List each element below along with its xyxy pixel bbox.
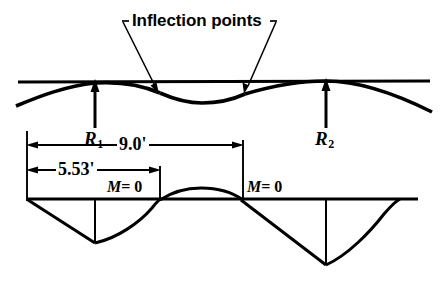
diagram-canvas [0,0,446,287]
dimension-label-9ft: 9.0' [117,135,149,153]
moment-right-parabola [326,199,400,265]
reaction-r2-symbol: R [315,128,328,149]
reaction-r1-label: R1 [84,129,103,150]
moment-zero-left-value: = 0 [121,178,142,195]
beam-diagram-figure: Inflection points R1 R2 9.0' 5.53' M= 0 … [0,0,446,287]
reaction-r2-label: R2 [315,129,334,150]
moment-left-straight-leg [28,200,95,243]
deflected-curve-middle [160,93,245,103]
reaction-arrow-r1 [91,79,100,128]
moment-zero-label-left: M= 0 [106,179,143,195]
moment-zero-right-value: = 0 [261,178,282,195]
moment-left-parabola [95,199,160,243]
moment-zero-label-right: M= 0 [246,179,283,195]
leader-right [243,21,278,94]
moment-right-straight-leg [241,200,326,265]
reaction-r1-subscript: 1 [97,137,103,151]
deflected-curve-left [16,83,160,106]
moment-zero-right-symbol: M [247,178,261,195]
reaction-arrow-r2 [322,78,331,128]
deflected-curve-right [245,81,432,112]
moment-zero-left-symbol: M [107,178,121,195]
reaction-r2-subscript: 2 [328,137,334,151]
dimension-label-553ft: 5.53' [56,160,97,178]
reaction-r1-symbol: R [84,128,97,149]
inflection-points-label: Inflection points [132,12,262,29]
reference-axis-line [18,81,430,82]
